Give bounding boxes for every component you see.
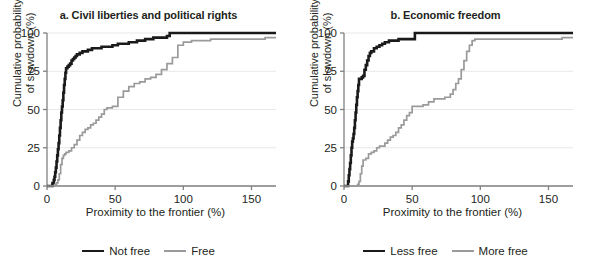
legend-label-not-free: Not free <box>109 245 150 257</box>
y-tick-label: 0 <box>331 180 337 192</box>
panel-b-legend: Less free More free <box>297 245 594 257</box>
legend-label-free: Free <box>191 245 215 257</box>
legend-label-more-free: More free <box>479 245 528 257</box>
series-line-free <box>47 38 276 186</box>
legend-item-free[interactable]: Free <box>164 245 215 257</box>
figure-container: a. Civil liberties and political rights … <box>0 0 594 265</box>
legend-item-more-free[interactable]: More free <box>452 245 528 257</box>
panel-a-xlabel: Proximity to the frontier (%) <box>14 206 297 218</box>
x-tick-label: 100 <box>174 193 193 205</box>
chart-panel-a: a. Civil liberties and political rights … <box>0 0 297 265</box>
y-tick-label: 100 <box>318 27 337 39</box>
x-tick-label: 50 <box>406 193 419 205</box>
legend-item-not-free[interactable]: Not free <box>82 245 150 257</box>
x-tick-label: 150 <box>539 193 558 205</box>
legend-item-less-free[interactable]: Less free <box>363 245 437 257</box>
x-tick-label: 100 <box>471 193 490 205</box>
x-tick-label: 50 <box>109 193 122 205</box>
x-tick-label: 0 <box>341 193 347 205</box>
chart-panel-b: b. Economic freedom Cumulative probabili… <box>297 0 594 265</box>
panel-a-plot: 0255075100050100150 <box>0 0 297 220</box>
legend-label-less-free: Less free <box>390 245 437 257</box>
panel-b-xlabel: Proximity to the frontier (%) <box>311 206 594 218</box>
legend-line-icon-dark <box>82 250 104 252</box>
panel-a-legend: Not free Free <box>0 245 297 257</box>
y-tick-label: 50 <box>27 104 40 116</box>
y-tick-label: 25 <box>27 142 40 154</box>
legend-line-icon-dark <box>363 250 385 252</box>
panel-b-plot: 0255075100050100150 <box>297 0 594 220</box>
y-tick-label: 50 <box>324 104 337 116</box>
x-tick-label: 0 <box>44 193 50 205</box>
y-tick-label: 75 <box>27 65 40 77</box>
y-tick-label: 25 <box>324 142 337 154</box>
legend-line-icon-gray <box>452 250 474 252</box>
x-tick-label: 150 <box>242 193 261 205</box>
legend-line-icon-gray <box>164 250 186 252</box>
y-tick-label: 0 <box>34 180 40 192</box>
series-line-more-free <box>344 38 573 186</box>
y-tick-label: 100 <box>21 27 40 39</box>
y-tick-label: 75 <box>324 65 337 77</box>
